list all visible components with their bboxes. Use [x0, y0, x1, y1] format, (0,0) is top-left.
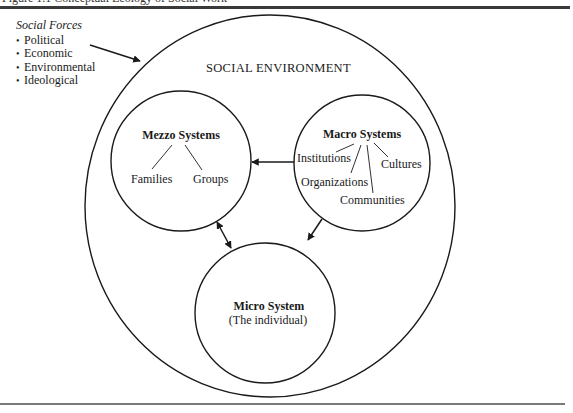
mezzo-micro-two-way-arrow: [217, 222, 231, 248]
macro-branch-line: [374, 143, 388, 157]
macro-child-communities: Communities: [340, 193, 405, 207]
macro-child-institutions: Institutions: [297, 151, 351, 165]
mezzo-systems-circle: [111, 91, 251, 231]
bottom-rule: [0, 403, 565, 405]
ecology-diagram: SOCIAL ENVIRONMENT Mezzo Systems Familie…: [0, 0, 573, 413]
mezzo-branch-line: [185, 145, 202, 170]
micro-system-title: Micro System: [234, 299, 305, 313]
mezzo-child-groups: Groups: [193, 172, 229, 186]
social-environment-label: SOCIAL ENVIRONMENT: [206, 61, 351, 75]
mezzo-systems-title: Mezzo Systems: [142, 128, 220, 142]
macro-branch-line: [351, 145, 361, 173]
macro-systems-title: Macro Systems: [323, 127, 401, 141]
macro-child-cultures: Cultures: [381, 157, 422, 171]
macro-to-micro-arrow: [308, 219, 322, 240]
mezzo-child-families: Families: [131, 172, 173, 186]
micro-system-subtitle: (The individual): [229, 313, 307, 327]
social-forces-arrow: [90, 45, 140, 61]
macro-child-organizations: Organizations: [301, 175, 368, 189]
mezzo-branch-line: [152, 145, 172, 169]
